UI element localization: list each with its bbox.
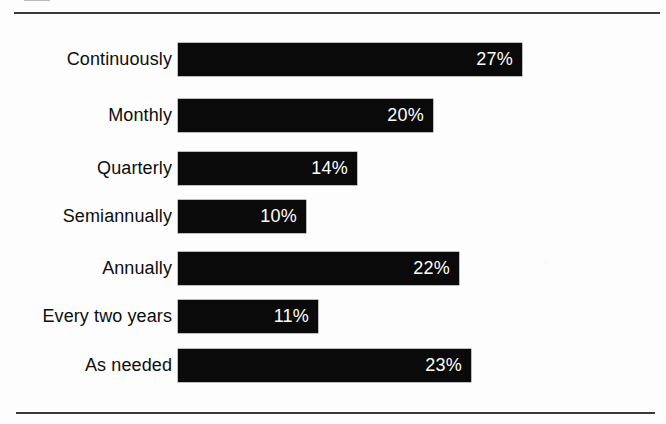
bar-value-label: 10% — [260, 200, 297, 233]
bar: 23% — [178, 349, 471, 382]
bar-category-label: Monthly — [108, 99, 172, 132]
bar-value-label: 27% — [476, 43, 513, 76]
bottom-divider — [16, 412, 655, 414]
bar-row: Quarterly14% — [0, 152, 666, 185]
bar-value-label: 11% — [274, 300, 309, 333]
bar-row: Semiannually10% — [0, 200, 666, 233]
bar-category-label: Continuously — [67, 43, 172, 76]
bar-row: Annually22% — [0, 252, 666, 285]
bar-row: Monthly20% — [0, 99, 666, 132]
bar-value-label: 14% — [311, 152, 348, 185]
bar: 22% — [178, 252, 459, 285]
bar-category-label: Every two years — [42, 300, 172, 333]
bar-value-label: 20% — [387, 99, 424, 132]
bar-value-label: 22% — [413, 252, 450, 285]
bar-value-label: 23% — [425, 349, 462, 382]
bar-category-label: As needed — [85, 349, 172, 382]
bar: 10% — [178, 200, 306, 233]
bar-row: As needed23% — [0, 349, 666, 382]
bar: 20% — [178, 99, 433, 132]
figure-container: Continuously27%Monthly20%Quarterly14%Sem… — [0, 0, 666, 424]
bar-category-label: Quarterly — [97, 152, 172, 185]
bar: 14% — [178, 152, 357, 185]
bar-row: Continuously27% — [0, 43, 666, 76]
bar: 27% — [178, 43, 522, 76]
bar-category-label: Annually — [102, 252, 172, 285]
bar-chart-plot: Continuously27%Monthly20%Quarterly14%Sem… — [0, 0, 666, 424]
bar-row: Every two years11% — [0, 300, 666, 333]
bar: 11% — [178, 300, 318, 333]
bar-category-label: Semiannually — [63, 200, 172, 233]
